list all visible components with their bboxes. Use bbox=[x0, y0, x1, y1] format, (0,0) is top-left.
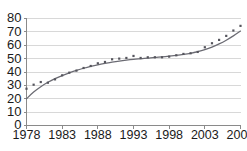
x-axis-tick-labels: 1978198319881993199820032008 bbox=[13, 128, 247, 142]
y-tick-label: 10 bbox=[7, 104, 21, 119]
data-point bbox=[111, 58, 113, 60]
data-points bbox=[25, 25, 241, 90]
y-tick-label: 50 bbox=[7, 51, 21, 66]
data-point bbox=[197, 51, 199, 53]
scatter-chart: 01020304050607080 1978198319881993199820… bbox=[0, 0, 247, 151]
x-tick-label: 1978 bbox=[13, 128, 41, 142]
x-tick-label: 1998 bbox=[155, 128, 183, 142]
y-tick-label: 30 bbox=[7, 77, 21, 92]
data-point bbox=[25, 88, 27, 90]
data-point bbox=[189, 52, 191, 54]
y-tick-label: 60 bbox=[7, 37, 21, 52]
data-point bbox=[54, 78, 56, 80]
data-point bbox=[225, 35, 227, 37]
y-axis-tick-labels: 01020304050607080 bbox=[7, 10, 21, 132]
data-point bbox=[140, 57, 142, 59]
y-tick-label: 80 bbox=[7, 10, 21, 25]
data-point bbox=[40, 81, 42, 83]
data-point bbox=[90, 65, 92, 67]
data-point bbox=[211, 42, 213, 44]
data-point bbox=[132, 55, 134, 57]
data-point bbox=[218, 39, 220, 41]
data-point bbox=[75, 70, 77, 72]
data-point bbox=[232, 29, 234, 31]
data-point bbox=[97, 62, 99, 64]
x-tick-label: 2003 bbox=[191, 128, 219, 142]
data-point bbox=[147, 56, 149, 58]
data-point bbox=[68, 72, 70, 74]
fitted-trend-curve bbox=[27, 31, 241, 99]
data-point bbox=[33, 84, 35, 86]
x-tick-label: 2008 bbox=[227, 128, 247, 142]
data-point bbox=[47, 82, 49, 84]
data-point bbox=[161, 56, 163, 58]
data-point bbox=[154, 56, 156, 58]
data-point bbox=[168, 56, 170, 58]
x-tick-label: 1988 bbox=[84, 128, 112, 142]
data-point bbox=[175, 54, 177, 56]
data-point bbox=[61, 74, 63, 76]
data-point bbox=[182, 53, 184, 55]
data-point bbox=[239, 25, 241, 27]
chart-container: 01020304050607080 1978198319881993199820… bbox=[0, 0, 247, 151]
data-point bbox=[204, 46, 206, 48]
y-tick-label: 20 bbox=[7, 91, 21, 106]
y-tick-label: 40 bbox=[7, 64, 21, 79]
data-point bbox=[82, 67, 84, 69]
data-point bbox=[104, 61, 106, 63]
x-tick-label: 1983 bbox=[48, 128, 76, 142]
gridlines bbox=[27, 19, 241, 126]
x-tick-label: 1993 bbox=[120, 128, 148, 142]
data-point bbox=[118, 58, 120, 60]
data-point bbox=[125, 57, 127, 59]
y-tick-label: 70 bbox=[7, 24, 21, 39]
